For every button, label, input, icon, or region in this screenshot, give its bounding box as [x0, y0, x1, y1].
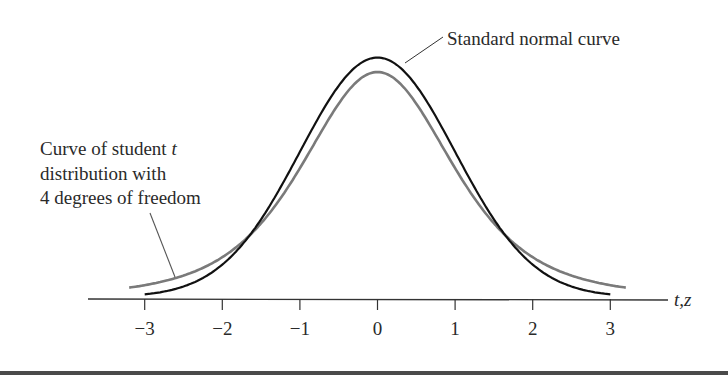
bottom-border-rule	[0, 371, 728, 375]
x-tick-label: −2	[212, 318, 232, 339]
x-axis-ticks: −3−2−10123	[135, 299, 615, 339]
x-tick-label: 0	[373, 318, 383, 339]
t-label-variable: t	[171, 138, 177, 159]
x-tick-label: 3	[606, 318, 616, 339]
normal-leader-line	[405, 37, 443, 63]
t-label-prefix: Curve of student	[40, 138, 171, 159]
student-t-curve	[129, 72, 626, 288]
t-curve-label-line3: 4 degrees of freedom	[40, 187, 201, 208]
chart: −3−2−10123 Standard normal curve Curve o…	[0, 0, 728, 375]
t-curve-label-line2: distribution with	[40, 163, 167, 184]
x-tick-label: 2	[528, 318, 538, 339]
normal-curve-label: Standard normal curve	[447, 28, 620, 49]
x-tick-label: −1	[290, 318, 310, 339]
x-axis-title: t,z	[674, 289, 692, 310]
t-leader-line	[150, 213, 175, 277]
x-tick-label: 1	[450, 318, 460, 339]
normal-curve	[145, 58, 611, 295]
x-tick-label: −3	[135, 318, 155, 339]
t-curve-label-line1: Curve of student t	[40, 138, 177, 159]
